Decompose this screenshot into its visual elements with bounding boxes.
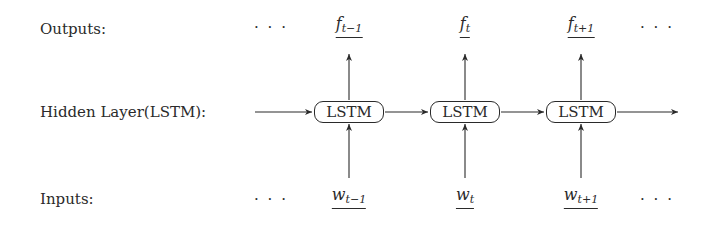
lstm-unit-t: LSTM	[430, 101, 500, 123]
lstm-unit-t-minus-1: LSTM	[314, 101, 384, 123]
lstm-unit-t-plus-1: LSTM	[546, 101, 616, 123]
